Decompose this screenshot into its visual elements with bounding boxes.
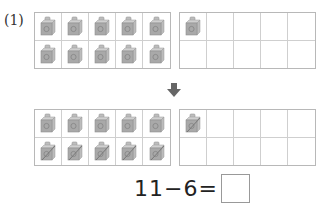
cube-icon bbox=[148, 113, 166, 133]
frame-cell bbox=[234, 41, 261, 69]
crossed-cube-icon bbox=[184, 113, 202, 133]
frame-cell bbox=[35, 138, 62, 166]
frame-cell bbox=[180, 13, 207, 41]
cube-icon bbox=[93, 44, 111, 64]
cube-icon bbox=[66, 113, 84, 133]
frame-cell bbox=[207, 110, 234, 138]
frame-cell bbox=[261, 138, 288, 166]
frame-cell bbox=[143, 41, 170, 69]
frame-cell bbox=[180, 110, 207, 138]
frame-cell bbox=[116, 41, 143, 69]
frame-cell bbox=[288, 138, 315, 166]
ten-frame-before-left bbox=[34, 12, 171, 69]
frame-cell bbox=[261, 110, 288, 138]
crossed-cube-icon bbox=[120, 141, 138, 161]
frame-cell bbox=[35, 13, 62, 41]
frame-cell bbox=[62, 138, 89, 166]
frame-cell bbox=[62, 110, 89, 138]
frame-cell bbox=[143, 110, 170, 138]
cube-icon bbox=[148, 16, 166, 36]
cube-icon bbox=[120, 16, 138, 36]
frame-cell bbox=[180, 41, 207, 69]
subtraction-equation: 11−6= bbox=[134, 174, 250, 203]
down-arrow-icon bbox=[167, 83, 181, 97]
frame-cell bbox=[89, 13, 116, 41]
cube-icon bbox=[39, 44, 57, 64]
frame-cell bbox=[207, 13, 234, 41]
crossed-cube-icon bbox=[66, 141, 84, 161]
frame-cell bbox=[261, 41, 288, 69]
ten-frame-after-left bbox=[34, 109, 171, 166]
equation-text: 11−6= bbox=[134, 176, 218, 201]
frame-cell bbox=[62, 41, 89, 69]
frame-cell bbox=[288, 41, 315, 69]
frame-cell bbox=[35, 110, 62, 138]
frame-cell bbox=[261, 13, 288, 41]
frame-cell bbox=[116, 110, 143, 138]
cube-icon bbox=[120, 113, 138, 133]
frame-cell bbox=[234, 13, 261, 41]
frame-cell bbox=[207, 138, 234, 166]
cube-icon bbox=[39, 16, 57, 36]
frame-cell bbox=[288, 110, 315, 138]
problem-number: (1) bbox=[4, 12, 24, 28]
answer-box[interactable] bbox=[221, 174, 250, 203]
ten-frame-before-right bbox=[179, 12, 316, 69]
frame-cell bbox=[89, 41, 116, 69]
crossed-cube-icon bbox=[93, 141, 111, 161]
frame-cell bbox=[234, 138, 261, 166]
frame-cell bbox=[234, 110, 261, 138]
cube-icon bbox=[148, 44, 166, 64]
frame-cell bbox=[89, 138, 116, 166]
frame-cell bbox=[143, 138, 170, 166]
frame-cell bbox=[180, 138, 207, 166]
frame-cell bbox=[116, 138, 143, 166]
cube-icon bbox=[66, 16, 84, 36]
frame-cell bbox=[288, 13, 315, 41]
crossed-cube-icon bbox=[148, 141, 166, 161]
ten-frame-after-right bbox=[179, 109, 316, 166]
cube-icon bbox=[39, 113, 57, 133]
cube-icon bbox=[93, 113, 111, 133]
cube-icon bbox=[66, 44, 84, 64]
frame-cell bbox=[143, 13, 170, 41]
crossed-cube-icon bbox=[39, 141, 57, 161]
cube-icon bbox=[93, 16, 111, 36]
cube-icon bbox=[120, 44, 138, 64]
frame-cell bbox=[207, 41, 234, 69]
frame-cell bbox=[62, 13, 89, 41]
frame-cell bbox=[35, 41, 62, 69]
frame-cell bbox=[89, 110, 116, 138]
frame-cell bbox=[116, 13, 143, 41]
cube-icon bbox=[184, 16, 202, 36]
